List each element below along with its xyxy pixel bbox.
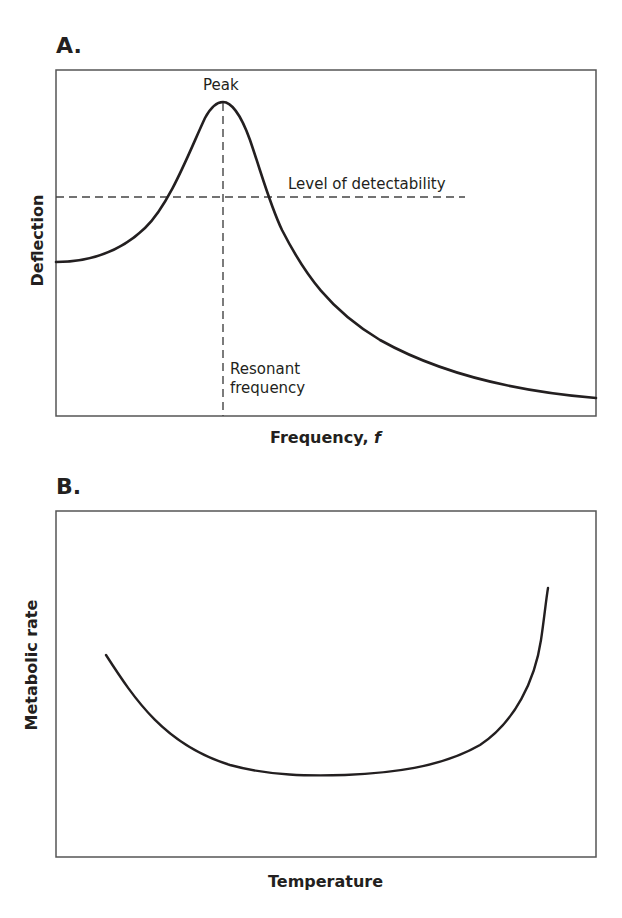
panel-b-ylabel: Metabolic rate [22, 601, 41, 731]
resonant-frequency-label: Resonant frequency [230, 360, 305, 398]
metabolic-curve [106, 588, 548, 775]
panel-a-xlabel: Frequency, f [270, 428, 381, 447]
resonance-curve [56, 102, 596, 398]
panel-a-xlabel-italic: f [374, 428, 381, 447]
resonant-label-line1: Resonant [230, 360, 305, 379]
panel-b-frame [56, 511, 596, 857]
chart-canvas [0, 0, 622, 918]
peak-label: Peak [203, 76, 239, 95]
panel-a-frame [56, 70, 596, 416]
detectability-label: Level of detectability [288, 175, 446, 194]
resonant-label-line2: frequency [230, 379, 305, 398]
panel-a-xlabel-text: Frequency, [270, 428, 374, 447]
panel-b-label: B. [56, 474, 81, 499]
panel-a-ylabel: Deflection [28, 197, 47, 287]
panel-b-xlabel: Temperature [268, 872, 383, 891]
